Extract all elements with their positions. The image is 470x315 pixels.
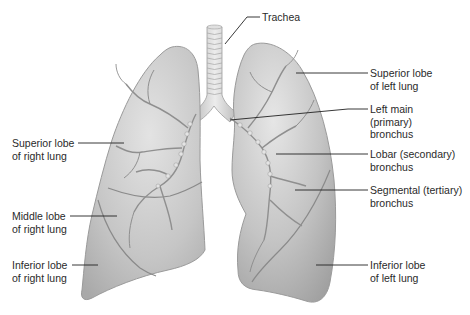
right-lung bbox=[81, 46, 205, 299]
label-segmental-bronchus: Segmental (tertiary) bronchus bbox=[370, 184, 462, 209]
label-superior-lobe-right: Superior lobe of right lung bbox=[12, 137, 74, 162]
label-inferior-lobe-right: Inferior lobe of right lung bbox=[12, 259, 67, 284]
label-inferior-lobe-left: Inferior lobe of left lung bbox=[370, 259, 425, 284]
label-trachea: Trachea bbox=[262, 11, 300, 24]
leader-trachea bbox=[225, 17, 260, 44]
label-left-main-bronchus: Left main (primary) bronchus bbox=[370, 103, 413, 141]
label-superior-lobe-left: Superior lobe of left lung bbox=[370, 67, 432, 92]
label-lobar-bronchus: Lobar (secondary) bronchus bbox=[370, 148, 455, 173]
left-lung bbox=[230, 43, 336, 302]
label-middle-lobe-right: Middle lobe of right lung bbox=[12, 210, 67, 235]
